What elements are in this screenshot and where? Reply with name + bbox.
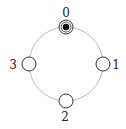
ring-diagram: 0 1 2 3 — [0, 0, 126, 129]
node-2: 2 — [59, 94, 73, 124]
node-3: 3 — [9, 57, 36, 72]
token-icon — [63, 24, 69, 30]
node-label-2: 2 — [61, 110, 69, 124]
node-label-3: 3 — [9, 58, 17, 72]
node-0: 0 — [59, 6, 73, 34]
node-label-1: 1 — [112, 58, 120, 72]
ring-edge — [29, 27, 103, 101]
node-1: 1 — [96, 57, 120, 72]
node-label-0: 0 — [62, 6, 70, 20]
